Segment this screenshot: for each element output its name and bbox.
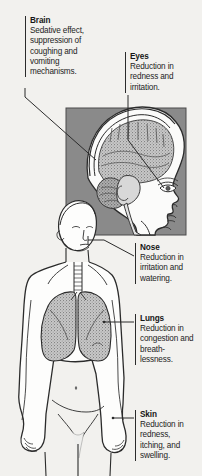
callout-lungs: Lungs Reduction in congestion and breath… [135,314,197,365]
callout-skin-title: Skin [140,410,197,420]
callout-nose: Nose Reduction in irritation and waterin… [135,243,197,284]
callout-nose-title: Nose [140,243,197,253]
callout-eyes-title: Eyes [130,52,191,62]
leader-nose [88,240,134,256]
callout-nose-body: Reduction in irritation and watering. [140,253,197,284]
illustration-page: Brain Sedative effect, suppression of co… [0,0,202,476]
callout-brain: Brain Sedative effect, suppression of co… [25,16,97,77]
callout-lungs-body: Reduction in congestion and breath-lessn… [140,324,197,365]
body-figure [19,201,126,476]
callout-skin: Skin Reduction in redness, itching, and … [135,410,197,461]
callout-eyes-body: Reduction in redness and irritation. [130,62,191,93]
callout-brain-body: Sedative effect, suppression of coughing… [30,26,97,77]
callout-eyes: Eyes Reduction in redness and irritation… [125,52,191,93]
callout-lungs-title: Lungs [140,314,197,324]
callout-skin-body: Reduction in redness, itching, and swell… [140,420,197,461]
callout-brain-title: Brain [30,16,97,26]
